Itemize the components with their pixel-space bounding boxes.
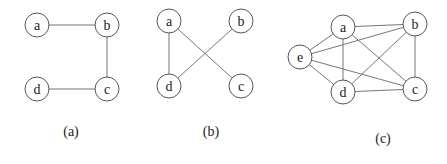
node-a: a: [331, 15, 355, 39]
graph-a: abcd (a): [25, 13, 119, 140]
node-c: c: [229, 74, 253, 98]
node-label: c: [104, 82, 110, 97]
nodes: abcde: [288, 12, 427, 104]
caption-b: (b): [203, 124, 220, 140]
node-label: a: [34, 18, 41, 33]
graph-figure: abcd (a) abcd (b) abcde (c): [0, 0, 447, 164]
node-d: d: [157, 74, 181, 98]
node-label: d: [166, 79, 173, 94]
nodes: abcd: [25, 13, 119, 101]
node-a: a: [25, 13, 49, 37]
node-label: a: [166, 14, 173, 29]
node-label: e: [297, 50, 303, 65]
node-label: d: [34, 82, 41, 97]
node-label: b: [104, 18, 111, 33]
edge-e-c: [300, 57, 415, 89]
edges: [37, 25, 107, 89]
node-label: d: [340, 85, 347, 100]
node-b: b: [403, 12, 427, 36]
node-label: b: [412, 17, 419, 32]
edges: [169, 21, 241, 86]
node-d: d: [25, 77, 49, 101]
node-b: b: [95, 13, 119, 37]
node-b: b: [229, 9, 253, 33]
node-d: d: [331, 80, 355, 104]
graph-b: abcd (b): [157, 9, 253, 140]
caption-a: (a): [63, 124, 79, 140]
node-label: c: [412, 82, 418, 97]
node-label: b: [238, 14, 245, 29]
node-label: c: [238, 79, 244, 94]
node-e: e: [288, 45, 312, 69]
node-c: c: [95, 77, 119, 101]
node-a: a: [157, 9, 181, 33]
node-c: c: [403, 77, 427, 101]
edges: [300, 24, 415, 92]
caption-c: (c): [375, 131, 391, 147]
graph-c: abcde (c): [288, 12, 427, 147]
node-label: a: [340, 20, 347, 35]
